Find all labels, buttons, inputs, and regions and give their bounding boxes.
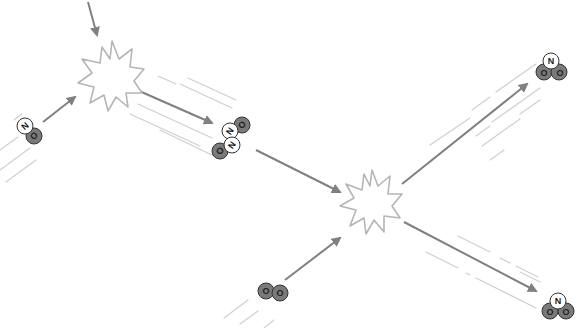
- svg-text:O: O: [562, 307, 569, 317]
- n2o2-dimer-molecule: N N O O: [212, 117, 250, 159]
- arrow-incoming-top: [88, 2, 97, 35]
- svg-text:O: O: [262, 286, 269, 296]
- arrow-collision-1-to-dimer: [137, 90, 212, 123]
- collision-burst-icon: [340, 170, 402, 234]
- reaction-diagram: N O N N O O O O N O O N O O: [0, 0, 584, 328]
- no2-molecule-bottom: N O O: [542, 293, 574, 319]
- arrows: [43, 2, 536, 291]
- no2-molecule-top: N O O: [536, 53, 567, 80]
- arrow-collision-2-to-no2-bottom: [404, 222, 536, 291]
- collision-burst-icon: [78, 41, 144, 111]
- o2-molecule: O O: [258, 283, 288, 301]
- svg-text:O: O: [546, 307, 553, 317]
- svg-text:N: N: [555, 296, 562, 306]
- svg-text:O: O: [556, 68, 563, 78]
- arrow-dimer-to-collision-2: [256, 150, 340, 192]
- arrow-o2-to-collision-2: [285, 238, 340, 280]
- svg-text:O: O: [276, 288, 283, 298]
- no-molecule: N O: [17, 118, 42, 144]
- arrow-collision-2-to-no2-top: [402, 84, 527, 184]
- arrow-no-to-collision-1: [43, 97, 75, 122]
- diagram-canvas: N O N N O O O O N O O N O O: [0, 0, 584, 328]
- svg-text:N: N: [548, 56, 555, 66]
- svg-text:O: O: [540, 68, 547, 78]
